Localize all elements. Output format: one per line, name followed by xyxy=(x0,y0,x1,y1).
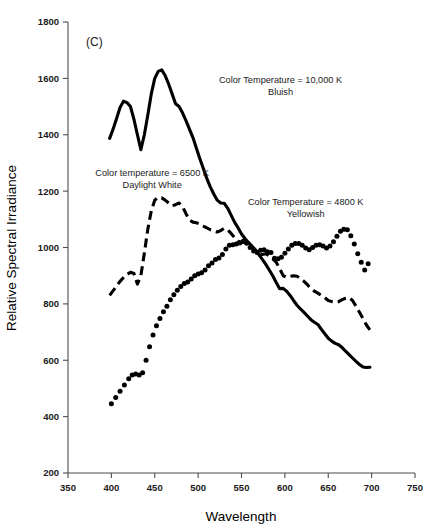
series-data-point xyxy=(362,268,367,273)
series-data-point xyxy=(282,251,287,256)
x-tick-label: 600 xyxy=(277,482,293,493)
series-data-point xyxy=(244,241,249,246)
series-data-point xyxy=(203,268,208,273)
series-data-point xyxy=(161,309,166,314)
series-data-point xyxy=(331,239,336,244)
series-data-point xyxy=(175,288,180,293)
y-tick-label: 1200 xyxy=(38,186,59,197)
series-data-point xyxy=(334,234,339,239)
series-data-point xyxy=(126,376,131,381)
series-data-point xyxy=(109,401,114,406)
series-data-point xyxy=(286,246,291,251)
spectral-irradiance-chart: 20040060080010001200140016001800 3504004… xyxy=(0,0,437,531)
series-data-point xyxy=(113,395,118,400)
y-tick-label: 1800 xyxy=(38,16,59,27)
annot-6500k-line1: Color temperature = 6500 K xyxy=(95,168,210,178)
series-data-point xyxy=(366,261,371,266)
series-data-point xyxy=(355,251,360,256)
x-axis-tick-labels: 350400450500550600650700750 xyxy=(60,482,423,493)
y-tick-label: 1400 xyxy=(38,129,59,140)
chart-figure: 20040060080010001200140016001800 3504004… xyxy=(0,0,437,531)
y-tick-label: 800 xyxy=(43,298,59,309)
y-tick-label: 200 xyxy=(43,467,59,478)
x-tick-label: 400 xyxy=(103,482,119,493)
x-tick-label: 750 xyxy=(407,482,423,493)
y-tick-label: 400 xyxy=(43,411,59,422)
series-data-point xyxy=(118,389,123,394)
annot-10000k-line2: Bluish xyxy=(268,87,293,97)
x-tick-label: 700 xyxy=(364,482,380,493)
series-data-point xyxy=(220,252,225,257)
series-data-point xyxy=(352,242,357,247)
series-data-point xyxy=(345,227,350,232)
x-tick-label: 350 xyxy=(60,482,76,493)
series-data-point xyxy=(164,304,169,309)
x-tick-label: 550 xyxy=(234,482,250,493)
series-data-point xyxy=(154,323,159,328)
series-data-point xyxy=(279,255,284,260)
series-data-point xyxy=(144,358,149,363)
series-data-point xyxy=(223,246,228,251)
x-tick-label: 650 xyxy=(320,482,336,493)
annot-6500k-line2: Daylight White xyxy=(123,180,182,190)
y-tick-label: 600 xyxy=(43,355,59,366)
y-tick-label: 1000 xyxy=(38,242,59,253)
series-data-point xyxy=(147,344,152,349)
y-tick-label: 1600 xyxy=(38,73,59,84)
series-data-point xyxy=(269,250,274,255)
series-data-point xyxy=(327,244,332,249)
panel-label: (C) xyxy=(86,35,103,49)
annot-4800k-line2: Yellowish xyxy=(287,209,325,219)
series-data-point xyxy=(157,316,162,321)
annot-4800k-line1: Color Temperature = 4800 K xyxy=(248,197,364,207)
x-tick-label: 500 xyxy=(190,482,206,493)
series-data-point xyxy=(348,233,353,238)
series-data-point xyxy=(122,383,127,388)
series-data-point xyxy=(171,292,176,297)
series-data-point xyxy=(140,370,145,375)
series-data-point xyxy=(359,260,364,265)
series-data-point xyxy=(168,297,173,302)
x-tick-label: 450 xyxy=(147,482,163,493)
annot-10000k-line1: Color Temperature = 10,000 K xyxy=(219,75,343,85)
x-axis-title: Wavelength xyxy=(206,509,277,524)
y-axis-title: Relative Spectral Irradiance xyxy=(4,165,19,331)
series-data-point xyxy=(151,332,156,337)
